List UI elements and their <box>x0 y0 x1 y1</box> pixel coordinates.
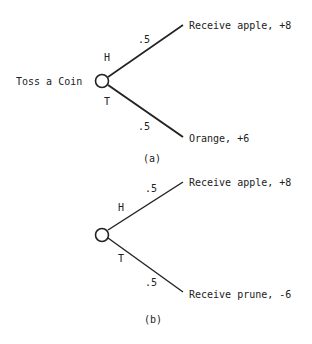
decision-trees: Toss a Coin .5 H T .5 Receive apple, +8 … <box>0 0 312 344</box>
event-label-h: H <box>118 202 124 213</box>
event-label-h: H <box>104 52 110 63</box>
prob-label-bottom: .5 <box>138 121 150 132</box>
event-label-t: T <box>118 253 124 264</box>
outcome-bottom: Receive prune, -6 <box>189 289 291 300</box>
branch-line-h <box>108 25 183 77</box>
tree-b: .5 H T .5 Receive apple, +8 Receive prun… <box>96 177 292 325</box>
caption-a: (a) <box>143 153 161 164</box>
outcome-top: Receive apple, +8 <box>189 177 291 188</box>
chance-node-circle <box>96 75 109 88</box>
prob-label-top: .5 <box>138 34 150 45</box>
root-label: Toss a Coin <box>16 76 82 87</box>
event-label-t: T <box>104 96 110 107</box>
prob-label-bottom: .5 <box>145 277 157 288</box>
prob-label-top: .5 <box>145 183 157 194</box>
tree-a: Toss a Coin .5 H T .5 Receive apple, +8 … <box>16 20 291 164</box>
chance-node-circle <box>96 229 109 242</box>
caption-b: (b) <box>144 314 162 325</box>
outcome-bottom: Orange, +6 <box>189 133 249 144</box>
outcome-top: Receive apple, +8 <box>189 20 291 31</box>
